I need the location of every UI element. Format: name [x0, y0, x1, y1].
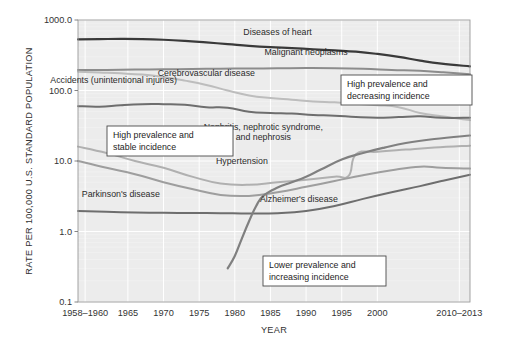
- x-tick-label: 1975: [189, 308, 209, 318]
- x-axis-title: YEAR: [261, 325, 287, 335]
- y-tick-label: 100.0: [49, 86, 72, 96]
- annotation-line: increasing incidence: [269, 272, 349, 282]
- x-tick-label: 1980: [225, 308, 245, 318]
- series-label-7: Alzheimer's disease: [260, 194, 338, 204]
- y-tick-label: 0.1: [59, 297, 72, 307]
- series-label-0: Diseases of heart: [243, 27, 312, 37]
- y-axis-title: RATE PER 100,000 U.S. STANDARD POPULATIO…: [24, 47, 34, 274]
- y-axis-ticks: 1000.0100.010.01.00.1: [44, 15, 78, 307]
- series-label-1: Malignant neoplasms: [265, 47, 349, 57]
- y-tick-label: 10.0: [54, 156, 72, 166]
- leading-causes-of-death-chart: 1000.0100.010.01.00.11958–19601965197019…: [0, 0, 505, 362]
- annotation-high-prevalence-stable[interactable]: High prevalence andstable incidence: [107, 126, 233, 156]
- x-tick-label: 1958–1960: [62, 308, 108, 318]
- x-tick-label: 1995: [331, 308, 351, 318]
- x-tick-label: 1965: [118, 308, 138, 318]
- annotation-line: High prevalence and: [347, 79, 428, 89]
- annotation-high-prevalence-decreasing[interactable]: High prevalence anddecreasing incidence: [341, 75, 472, 105]
- x-axis-ticks: 1958–19601965197019751980198519901995200…: [62, 308, 482, 318]
- annotation-line: decreasing incidence: [347, 91, 430, 101]
- annotation-line: Lower prevalence and: [269, 260, 356, 270]
- y-tick-label: 1000.0: [44, 15, 72, 25]
- series-label-6: Parkinson's disease: [82, 189, 160, 199]
- annotation-line: stable incidence: [113, 142, 176, 152]
- series-label-3: Accidents (unintentional injuries): [50, 75, 177, 85]
- series-label-5: Hypertension: [216, 156, 268, 166]
- x-tick-label: 1970: [153, 308, 173, 318]
- series-label-4: and nephrosis: [236, 132, 292, 142]
- x-tick-label: 2000: [367, 308, 387, 318]
- chart-svg: 1000.0100.010.01.00.11958–19601965197019…: [0, 0, 505, 362]
- y-tick-label: 1.0: [59, 227, 72, 237]
- annotation-line: High prevalence and: [113, 130, 194, 140]
- x-tick-label: 1985: [260, 308, 280, 318]
- annotation-lower-prevalence-increasing[interactable]: Lower prevalence andincreasing incidence: [263, 256, 386, 286]
- x-tick-label: 1990: [296, 308, 316, 318]
- x-tick-label: 2010–2013: [436, 308, 482, 318]
